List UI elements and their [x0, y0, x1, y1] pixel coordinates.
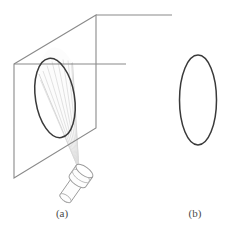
panel-a-group [14, 15, 172, 206]
figure-container: (a) (b) [0, 0, 236, 233]
panel-a-caption: (a) [42, 207, 82, 219]
optics-diagram-canvas [0, 0, 236, 233]
flashlight [55, 162, 95, 207]
panel-b-group [180, 55, 217, 145]
ellipse-standalone [180, 55, 217, 145]
panel-b-caption: (b) [175, 207, 215, 219]
